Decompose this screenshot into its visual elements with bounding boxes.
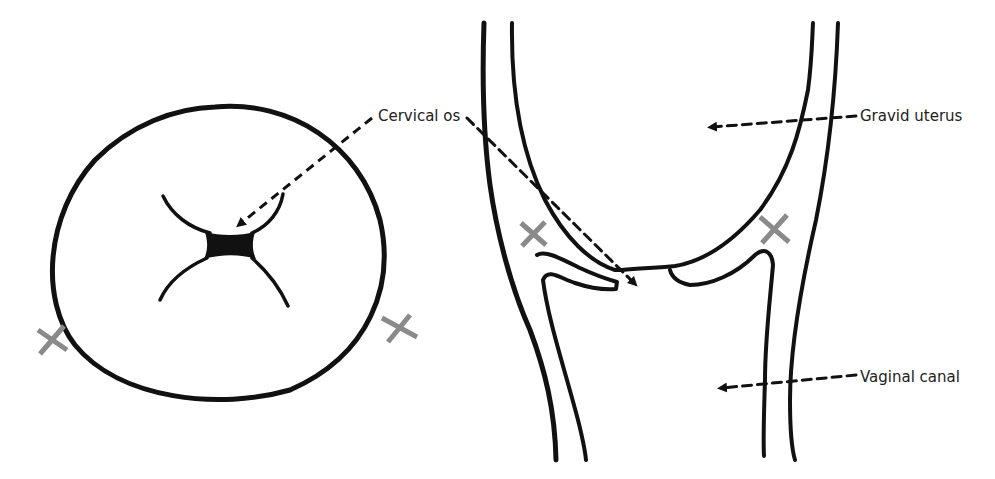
arrow-cervical-os-left bbox=[240, 118, 372, 224]
cervix-sagittal-view bbox=[467, 23, 856, 460]
marker-x-left-1 bbox=[38, 326, 67, 354]
cervix-face-view bbox=[38, 106, 417, 399]
right-cervical-lip bbox=[670, 251, 773, 456]
diagram-svg bbox=[0, 0, 995, 479]
arrow-gravid-uterus bbox=[712, 116, 856, 127]
marker-x-right-1 bbox=[521, 222, 546, 246]
label-gravid-uterus: Gravid uterus bbox=[860, 107, 962, 125]
left-cervical-lip bbox=[537, 253, 617, 460]
diagram-canvas: Cervical os Gravid uterus Vaginal canal bbox=[0, 0, 995, 479]
right-outer-wall bbox=[790, 23, 838, 460]
cervical-os-shape bbox=[160, 194, 288, 306]
marker-x-right-2 bbox=[760, 215, 789, 243]
uterus-bottom bbox=[622, 23, 813, 270]
label-vaginal-canal: Vaginal canal bbox=[860, 368, 960, 386]
left-inner-wall bbox=[512, 23, 622, 270]
label-cervical-os: Cervical os bbox=[378, 107, 460, 125]
marker-x-left-2 bbox=[382, 315, 417, 342]
